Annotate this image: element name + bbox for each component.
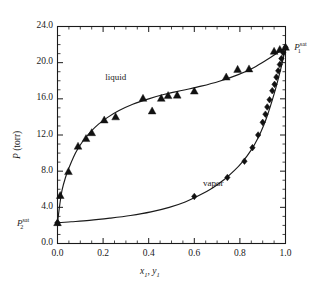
y-tick-label: 20.0 (18, 56, 53, 66)
y-tick-label: 0.0 (18, 237, 53, 247)
x-tick-label: 0.8 (223, 248, 257, 258)
y-tick-label: 16.0 (18, 92, 53, 102)
x-tick-label: 0.4 (132, 248, 166, 258)
y-tick-label: 12.0 (18, 129, 53, 139)
y-axis-title-symbol: P (12, 153, 22, 159)
y-tick-label: 8.0 (18, 165, 53, 175)
y-tick-label: 4.0 (18, 201, 53, 211)
x-tick-label: 0.6 (177, 248, 211, 258)
x-tick-label: 0.0 (41, 248, 75, 258)
p1-sat-sub: 1 (298, 47, 301, 54)
p1-sat-label: Psat1 (294, 40, 300, 54)
y-axis-title: P (torr) (12, 131, 22, 159)
x-axis-title: x1, y1 (140, 266, 160, 278)
p2-sat-sub: 2 (20, 223, 23, 230)
y-axis-title-unit: (torr) (12, 131, 22, 151)
x-axis-title-y-sub: 1 (156, 271, 159, 278)
y-tick-label: 24.0 (18, 20, 53, 30)
p2-sat-label: Psat2 (17, 216, 23, 230)
data-markers (54, 43, 290, 226)
liquid-curve-label: liquid (105, 72, 126, 82)
x-tick-label: 0.2 (86, 248, 120, 258)
vapor-curve-label: vapor (203, 178, 224, 188)
figure-vle-pxy-diagram: 0.04.08.012.016.020.024.0 0.00.20.40.60.… (0, 0, 319, 284)
p2-sat-sup: sat (22, 216, 29, 223)
x-tick-label: 1.0 (269, 248, 303, 258)
